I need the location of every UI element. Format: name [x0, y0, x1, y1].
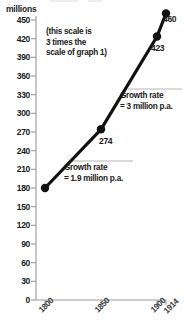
y-axis-ticks	[31, 20, 36, 300]
growth-rate-top-annotation: Growth rate = 3 million p.a.	[120, 91, 173, 112]
growth-rate-bottom-annotation: Growth rate = 1.9 million p.a.	[64, 163, 123, 184]
data-point-1900	[153, 32, 161, 40]
population-growth-line-chart: millions 450 420 390 360 330 300 270 240…	[0, 0, 184, 331]
data-label-274: 274	[99, 136, 112, 146]
data-point-1850	[97, 125, 105, 133]
data-label-423: 423	[151, 43, 164, 53]
data-point-1800	[41, 184, 49, 192]
data-label-460: 460	[163, 14, 176, 24]
scale-note-annotation: (this scale is 3 times the scale of grap…	[46, 27, 107, 59]
